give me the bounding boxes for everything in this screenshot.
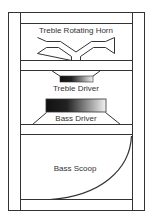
bass-driver-magnet bbox=[46, 99, 106, 112]
horn-label: Treble Rotating Horn bbox=[39, 26, 113, 35]
treble-driver-magnet bbox=[60, 76, 93, 82]
treble-horn-shape bbox=[38, 38, 115, 61]
treble-driver-cone bbox=[52, 71, 101, 77]
bass-scoop-label: Bass Scoop bbox=[54, 164, 97, 173]
speaker-cabinet-diagram: Treble Rotating Horn Treble Driver Bass … bbox=[0, 0, 152, 220]
treble-driver-label: Treble Driver bbox=[53, 84, 99, 93]
bass-driver-label: Bass Driver bbox=[55, 114, 97, 123]
